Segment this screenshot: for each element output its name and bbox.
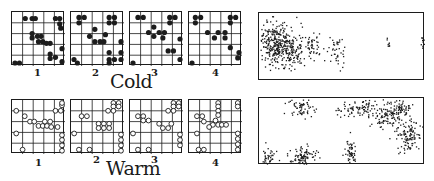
- cold-grid-4: [188, 11, 241, 65]
- warm-caption: Warm: [106, 159, 160, 178]
- warm-scatter-box: [258, 97, 424, 164]
- grid-lines-icon: [189, 12, 242, 66]
- cold-grid-2-number: 2: [92, 68, 99, 78]
- cold-caption: Cold: [110, 72, 152, 91]
- warm-grid-4: [188, 99, 241, 153]
- warm-grid-4-number: 4: [212, 158, 219, 168]
- grid-lines-icon: [12, 100, 65, 154]
- warm-grid-2: [70, 99, 123, 153]
- grid-lines-icon: [130, 12, 183, 66]
- scatter-dots-icon: [259, 13, 425, 81]
- cold-grid-2: [70, 11, 123, 65]
- cold-grid-1-number: 1: [34, 68, 41, 78]
- grid-lines-icon: [12, 12, 65, 66]
- grid-lines-icon: [71, 12, 124, 66]
- warm-grid-2-number: 2: [93, 155, 100, 165]
- warm-grid-1: [11, 99, 64, 153]
- grid-lines-icon: [130, 100, 183, 154]
- warm-grid-1-number: 1: [35, 158, 42, 168]
- grid-lines-icon: [71, 100, 124, 154]
- cold-grid-3: [129, 11, 182, 65]
- grid-lines-icon: [189, 100, 242, 154]
- cold-scatter-box: [258, 12, 424, 80]
- warm-grid-3: [129, 99, 182, 153]
- scatter-dots-icon: [259, 98, 425, 165]
- cold-grid-4-number: 4: [212, 68, 219, 78]
- cold-grid-1: [11, 11, 64, 65]
